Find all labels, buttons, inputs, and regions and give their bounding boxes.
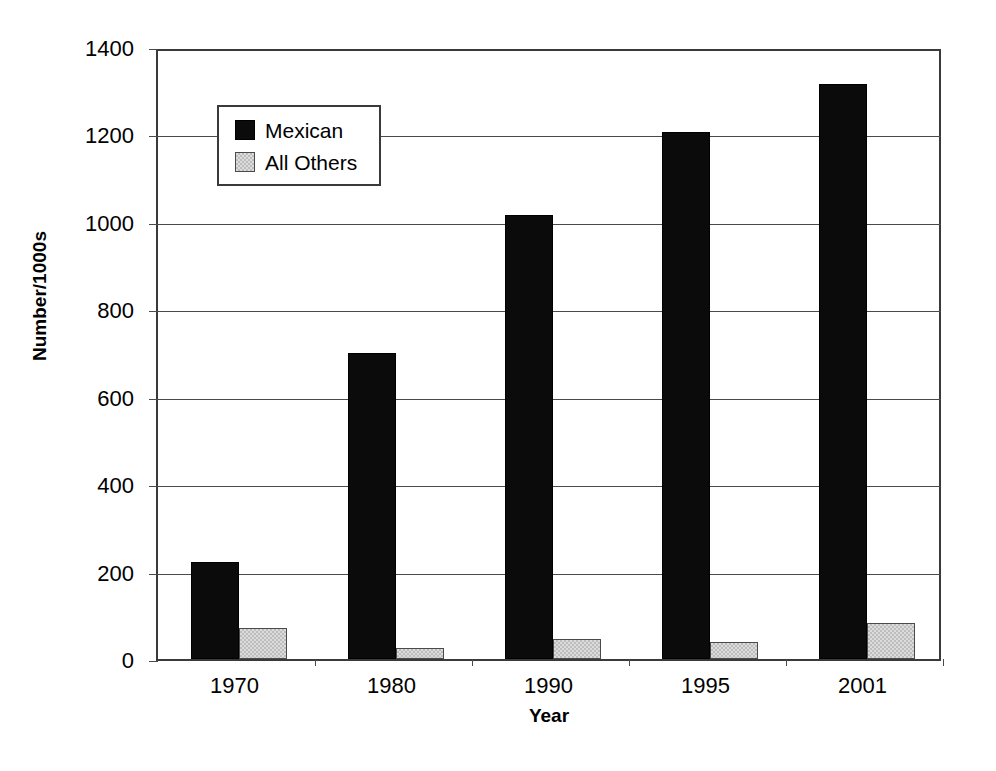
y-axis-tick <box>149 136 158 137</box>
x-axis-category-label: 1980 <box>312 674 472 698</box>
bar-chart: Number/1000s 0200400600800100012001400 1… <box>0 0 996 771</box>
bar-1980-mexican <box>348 353 396 659</box>
y-axis-tick <box>149 399 158 400</box>
y-axis-tick <box>149 49 158 50</box>
bar-1980-all-others <box>396 648 444 659</box>
y-axis-tick-label: 400 <box>54 475 134 497</box>
x-axis-tick <box>629 659 630 666</box>
bar-2001-all-others <box>867 623 915 659</box>
y-axis-tick-label: 1400 <box>54 38 134 60</box>
bar-1990-mexican <box>505 215 553 659</box>
legend-item-all-others: All Others <box>235 146 379 178</box>
x-axis-title: Year <box>156 705 942 727</box>
bar-2001-mexican <box>819 84 867 659</box>
bar-1995-all-others <box>710 642 758 659</box>
y-axis-tick <box>149 486 158 487</box>
y-axis-tick-label: 600 <box>54 388 134 410</box>
legend-label-mexican: Mexican <box>265 120 343 141</box>
y-axis-tick-label: 1000 <box>54 213 134 235</box>
x-axis-category-label: 1995 <box>626 674 786 698</box>
legend-item-mexican: Mexican <box>235 114 379 146</box>
bar-1970-all-others <box>239 628 287 659</box>
bar-1990-all-others <box>553 639 601 659</box>
x-axis-category-label: 2001 <box>783 674 943 698</box>
y-axis-tick <box>149 224 158 225</box>
y-axis-tick <box>149 311 158 312</box>
y-axis-title: Number/1000s <box>29 196 51 396</box>
y-axis-tick-label: 1200 <box>54 125 134 147</box>
x-axis-tick <box>943 659 944 666</box>
x-axis-category-label: 1970 <box>155 674 315 698</box>
plot-right-border <box>939 49 941 659</box>
y-axis-tick-label: 800 <box>54 300 134 322</box>
x-axis-category-label: 1990 <box>469 674 629 698</box>
legend-swatch-mexican <box>235 120 255 140</box>
y-axis-tick <box>149 574 158 575</box>
legend-swatch-all-others <box>235 152 255 172</box>
y-axis-tick-label: 200 <box>54 563 134 585</box>
y-axis-tick <box>149 661 158 662</box>
legend-label-all-others: All Others <box>265 152 357 173</box>
plot-top-border <box>158 49 941 51</box>
bar-1995-mexican <box>662 132 710 659</box>
x-axis-tick <box>786 659 787 666</box>
x-axis-tick <box>315 659 316 666</box>
y-axis-tick-label: 0 <box>54 650 134 672</box>
bar-1970-mexican <box>191 562 239 659</box>
legend: Mexican All Others <box>217 105 381 186</box>
x-axis-tick <box>472 659 473 666</box>
